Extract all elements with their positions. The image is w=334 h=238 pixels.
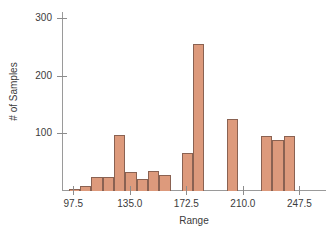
y-axis-line: [62, 12, 63, 191]
x-axis-tick: [186, 186, 187, 195]
x-axis-tick: [130, 186, 131, 195]
y-axis-tick-label: 300: [12, 13, 52, 23]
histogram-bar: [272, 140, 283, 191]
histogram-bar: [193, 44, 204, 191]
x-axis-tick: [299, 186, 300, 195]
x-axis-tick-label: 247.5: [274, 198, 324, 209]
histogram-bar: [137, 179, 148, 191]
histogram-bar: [103, 177, 114, 191]
x-axis-tick: [73, 186, 74, 195]
y-axis-tick: [57, 133, 67, 134]
histogram-bar: [91, 177, 102, 191]
x-axis-tick-label: 172.5: [161, 198, 211, 209]
histogram-bar: [125, 172, 136, 191]
x-axis-title: Range: [62, 215, 326, 226]
x-axis-tick: [243, 186, 244, 195]
y-axis-tick: [57, 76, 67, 77]
histogram-bar: [148, 171, 159, 191]
histogram-bar: [227, 119, 238, 191]
y-axis-tick: [57, 18, 67, 19]
histogram-bar: [159, 175, 170, 191]
histogram-bar: [114, 135, 125, 191]
histogram-bar: [261, 136, 272, 191]
x-axis-tick-label: 135.0: [105, 198, 155, 209]
y-axis-title: # of Samples: [8, 42, 19, 142]
histogram-bar: [182, 153, 193, 191]
histogram-bar: [80, 186, 91, 191]
histogram-bar: [284, 136, 295, 191]
histogram-bar: [69, 189, 80, 191]
histogram-figure: 100200300 97.5135.0172.5210.0247.5 Range…: [0, 0, 334, 238]
x-axis-tick-label: 210.0: [218, 198, 268, 209]
x-axis-tick-label: 97.5: [48, 198, 98, 209]
